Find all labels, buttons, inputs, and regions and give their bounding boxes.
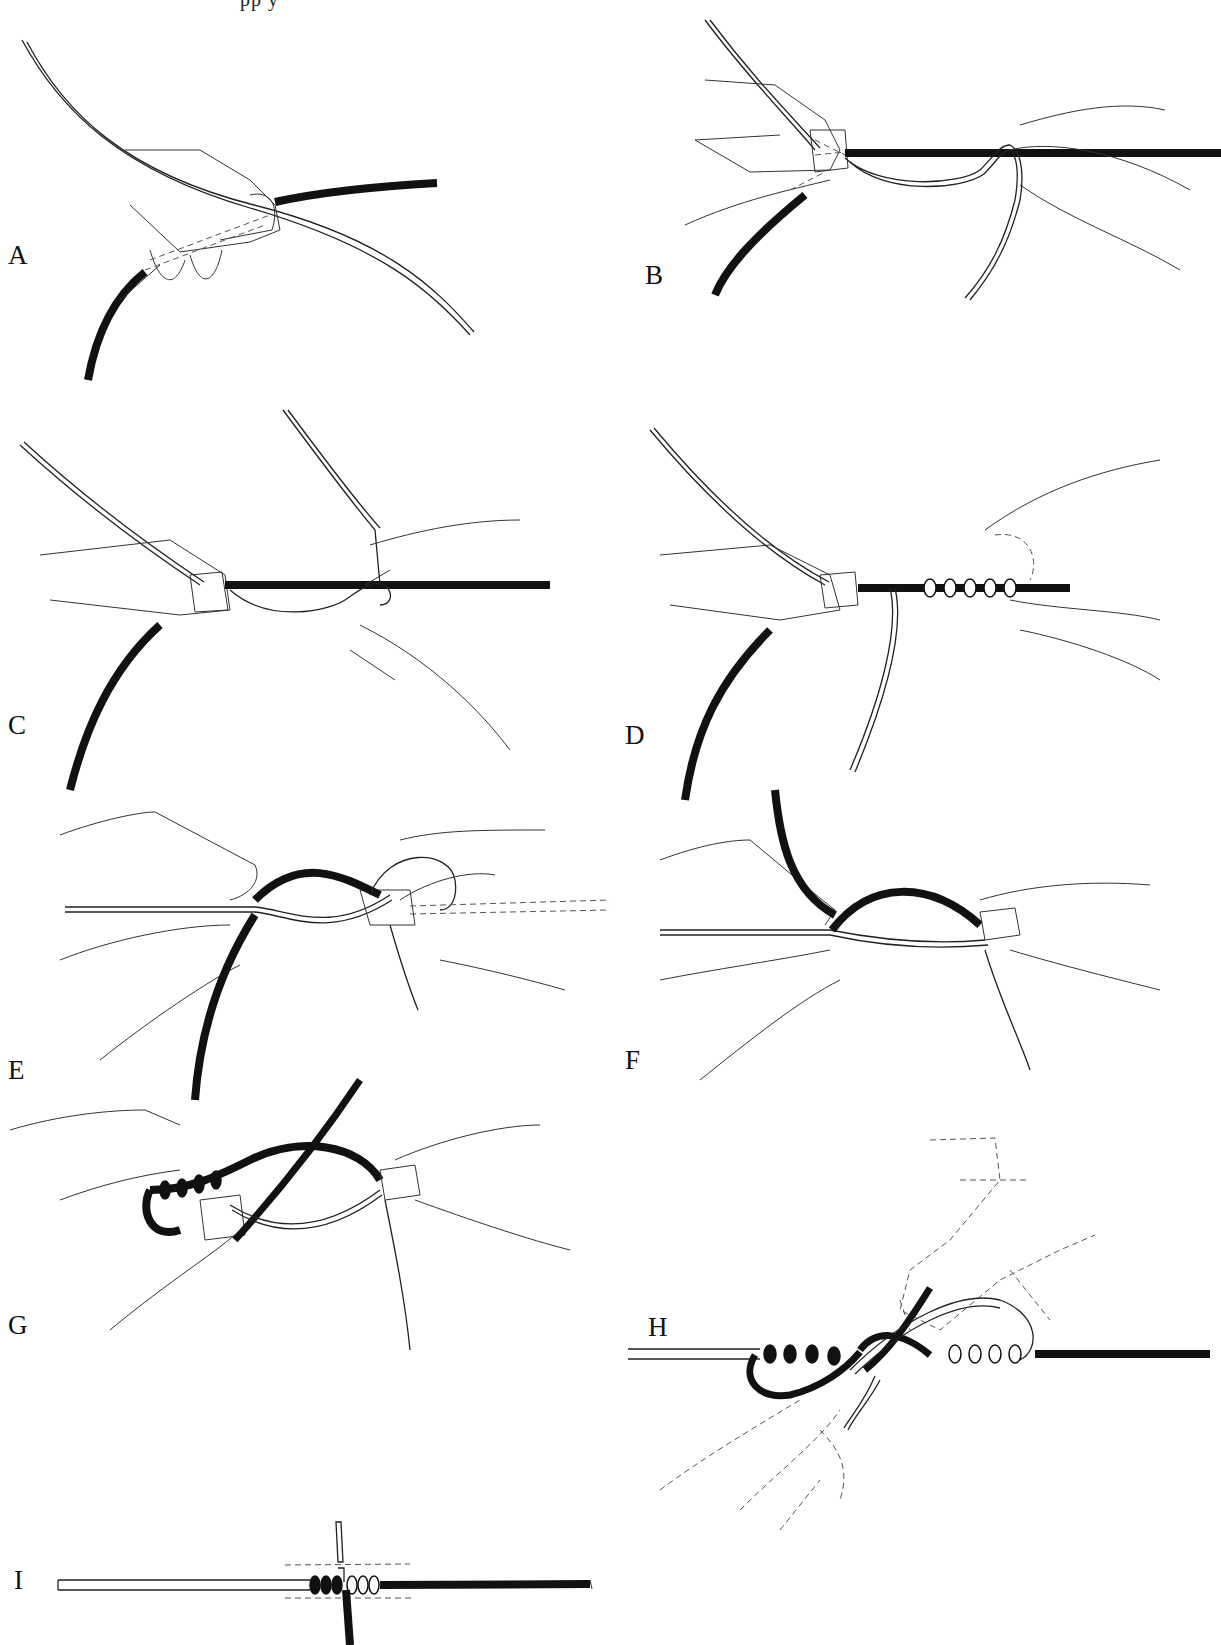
panel-label-g: G (8, 1310, 28, 1341)
panel-label-b: B (645, 260, 663, 291)
panel-d: D (600, 410, 1221, 810)
panel-d-illustration (600, 410, 1221, 810)
wraps-light (949, 1345, 1021, 1363)
panel-c: C (0, 400, 600, 800)
panel-label-h: H (648, 1312, 668, 1343)
panel-i: I (0, 1500, 650, 1645)
panel-g: G (0, 1080, 620, 1370)
panel-h: H (600, 1070, 1221, 1530)
panel-f: F (600, 800, 1221, 1100)
wraps-light (347, 1576, 379, 1594)
panel-label-i: I (14, 1565, 23, 1596)
panel-a: A (0, 30, 600, 390)
panel-label-a: A (8, 240, 28, 271)
panel-b: B (600, 0, 1221, 320)
panel-h-illustration (600, 1070, 1221, 1530)
knot-instruction-figure: pp y A B (0, 0, 1221, 1645)
panel-b-illustration (600, 0, 1221, 320)
panel-g-illustration (0, 1080, 620, 1370)
wraps-dark (764, 1345, 840, 1365)
cut-off-header-text: pp y (240, 0, 279, 11)
panel-a-illustration (0, 30, 600, 390)
panel-label-c: C (8, 710, 26, 741)
wraps-dark (310, 1576, 342, 1594)
panel-c-illustration (0, 400, 600, 800)
panel-f-illustration (600, 800, 1221, 1100)
panel-i-illustration (0, 1500, 650, 1645)
panel-e: E (0, 800, 620, 1100)
panel-label-d: D (625, 720, 645, 751)
panel-e-illustration (0, 800, 620, 1100)
